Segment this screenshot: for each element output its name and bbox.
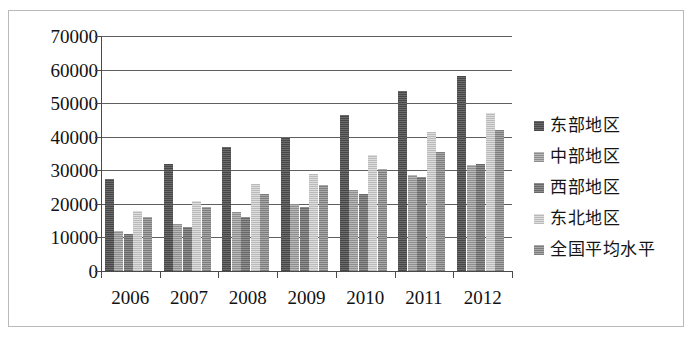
legend-label: 东北地区 <box>550 210 620 227</box>
y-axis-tick-label: 60000 <box>51 61 99 80</box>
bar-group <box>101 36 160 271</box>
bar <box>349 190 358 271</box>
bar <box>476 164 485 271</box>
bar-group <box>336 36 395 271</box>
legend-swatch-icon <box>534 152 544 162</box>
bar <box>309 174 318 271</box>
x-axis-tick-label: 2011 <box>394 288 454 308</box>
bar <box>398 91 407 271</box>
bar <box>417 177 426 271</box>
y-axis-tick-label: 20000 <box>51 195 99 214</box>
legend-item[interactable]: 西部地区 <box>534 172 694 203</box>
x-axis-tick-label: 2008 <box>218 288 278 308</box>
y-axis-tick <box>95 103 102 104</box>
y-axis-tick <box>95 137 102 138</box>
legend-label: 东部地区 <box>550 117 620 134</box>
x-axis-line <box>101 271 512 272</box>
bar-group <box>277 36 336 271</box>
y-axis-tick <box>95 204 102 205</box>
bar <box>495 130 504 271</box>
bar <box>378 169 387 271</box>
bar <box>300 207 309 271</box>
bar <box>486 113 495 271</box>
bar <box>133 211 142 271</box>
y-axis-tick-label: 70000 <box>51 27 99 46</box>
legend-item[interactable]: 全国平均水平 <box>534 234 694 265</box>
bar <box>164 164 173 271</box>
bar <box>232 212 241 271</box>
chart-legend: 东部地区中部地区西部地区东北地区全国平均水平 <box>534 110 694 265</box>
bar <box>427 132 436 271</box>
bar <box>222 147 231 271</box>
legend-label: 全国平均水平 <box>550 241 655 258</box>
x-axis-tick <box>101 271 102 278</box>
x-axis-tick <box>218 271 219 278</box>
y-axis-tick <box>95 70 102 71</box>
x-axis-tick <box>512 271 513 278</box>
bar-group <box>160 36 219 271</box>
bar <box>124 234 133 271</box>
legend-swatch-icon <box>534 214 544 224</box>
y-axis-tick-label: 40000 <box>51 128 99 147</box>
bar <box>319 185 328 271</box>
bar <box>202 207 211 271</box>
bar-group <box>453 36 512 271</box>
bar <box>467 165 476 271</box>
bar <box>408 175 417 271</box>
bar <box>192 201 201 272</box>
bar <box>143 217 152 271</box>
legend-swatch-icon <box>534 183 544 193</box>
x-axis-tick-label: 2007 <box>159 288 219 308</box>
plot-area <box>101 36 512 271</box>
legend-swatch-icon <box>534 121 544 131</box>
bar <box>281 137 290 271</box>
y-axis-tick <box>95 170 102 171</box>
bar <box>340 115 349 271</box>
chart-page: 700006000050000400003000020000100000 200… <box>0 0 696 337</box>
bar <box>290 204 299 271</box>
y-axis-tick-label: 30000 <box>51 161 99 180</box>
y-axis-tick <box>95 36 102 37</box>
x-axis-tick-label: 2006 <box>100 288 160 308</box>
x-axis-tick <box>160 271 161 278</box>
legend-swatch-icon <box>534 245 544 255</box>
bar-group <box>395 36 454 271</box>
legend-item[interactable]: 东部地区 <box>534 110 694 141</box>
legend-item[interactable]: 东北地区 <box>534 203 694 234</box>
y-axis-tick-label: 10000 <box>51 228 99 247</box>
bar-group <box>218 36 277 271</box>
bar <box>114 231 123 271</box>
bar <box>457 76 466 271</box>
legend-label: 西部地区 <box>550 179 620 196</box>
x-axis-tick-label: 2010 <box>335 288 395 308</box>
bar-groups <box>101 36 512 271</box>
x-axis-tick-label: 2009 <box>277 288 337 308</box>
y-axis-tick-label: 50000 <box>51 94 99 113</box>
bar <box>436 152 445 271</box>
bar <box>183 227 192 271</box>
bar <box>260 194 269 271</box>
x-axis-tick <box>453 271 454 278</box>
x-axis-tick <box>277 271 278 278</box>
x-axis-tick-label: 2012 <box>453 288 513 308</box>
legend-item[interactable]: 中部地区 <box>534 141 694 172</box>
bar <box>173 224 182 271</box>
bar <box>368 155 377 271</box>
y-axis-labels: 700006000050000400003000020000100000 <box>22 22 98 284</box>
bar <box>241 217 250 271</box>
bar-chart: 700006000050000400003000020000100000 200… <box>0 0 696 337</box>
bar <box>359 194 368 271</box>
x-axis-tick <box>336 271 337 278</box>
bar <box>105 179 114 271</box>
legend-label: 中部地区 <box>550 148 620 165</box>
x-axis-labels: 2006200720082009201020112012 <box>101 288 512 316</box>
x-axis-tick <box>395 271 396 278</box>
bar <box>251 184 260 271</box>
y-axis-tick <box>95 237 102 238</box>
